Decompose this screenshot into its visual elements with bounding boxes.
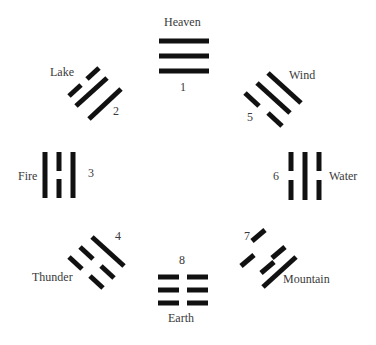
label-water: Water [329,169,357,183]
number-thunder: 4 [115,229,121,243]
trigram-heaven-icon [159,41,209,71]
trigram-water-icon [291,152,319,200]
number-wind: 5 [247,110,253,124]
trigram-thunder-icon [69,237,124,288]
number-heaven: 1 [180,80,186,94]
label-wind: Wind [289,68,315,82]
number-lake: 2 [113,104,119,118]
trigram-earth-icon [158,277,208,303]
label-heaven: Heaven [164,15,201,29]
label-thunder: Thunder [32,270,73,284]
label-fire: Fire [18,169,37,183]
label-earth: Earth [168,311,194,325]
trigram-diagram [0,0,376,345]
number-water: 6 [273,169,279,183]
number-earth: 8 [179,253,185,267]
number-fire: 3 [88,166,94,180]
label-mountain: Mountain [283,272,330,286]
trigram-fire-icon [45,152,73,198]
label-lake: Lake [50,65,74,79]
number-mountain: 7 [244,229,250,243]
